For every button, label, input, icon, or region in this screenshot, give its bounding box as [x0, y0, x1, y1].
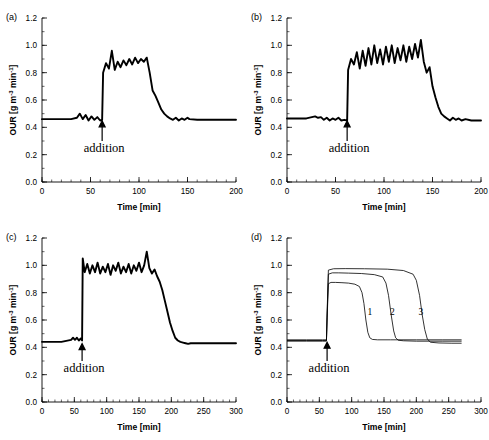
y-tick-label: 1.0 — [271, 41, 283, 50]
y-tick-label: 0.2 — [26, 371, 38, 380]
y-tick-label: 0.8 — [271, 289, 283, 298]
y-tick-label: 0.0 — [271, 178, 283, 187]
x-tick-label: 250 — [197, 407, 211, 416]
panel-letter: (b) — [251, 12, 262, 22]
chart-c: (c)0501001502002503000.00.20.40.60.81.01… — [0, 220, 244, 440]
x-tick-label: 50 — [86, 187, 96, 196]
x-tick-label: 150 — [132, 407, 146, 416]
y-axis-title: OUR [g m-3 min-1] — [253, 284, 263, 355]
x-tick-label: 200 — [164, 407, 178, 416]
x-tick-label: 150 — [377, 407, 391, 416]
y-tick-label: 0.0 — [26, 178, 38, 187]
y-tick-label: 0.6 — [271, 316, 283, 325]
x-tick-label: 200 — [229, 187, 243, 196]
x-axis-title: Time [min] — [362, 422, 405, 432]
y-axis-title: OUR [g m-3 min-1] — [8, 284, 18, 355]
series-our-measured — [42, 51, 236, 121]
y-tick-label: 0.8 — [271, 69, 283, 78]
y-tick-label: 0.6 — [271, 96, 283, 105]
panel-letter: (c) — [6, 232, 17, 242]
x-tick-label: 100 — [100, 407, 114, 416]
series-1 — [287, 282, 462, 339]
y-tick-label: 0.4 — [271, 123, 283, 132]
y-axis-title: OUR [g m-3 min-1] — [253, 64, 263, 135]
y-tick-label: 0.2 — [26, 151, 38, 160]
chart-b: (b)0501001502000.00.20.40.60.81.01.2Time… — [245, 0, 489, 220]
x-tick-label: 100 — [132, 187, 146, 196]
y-tick-label: 1.0 — [26, 261, 38, 270]
x-tick-label: 250 — [442, 407, 456, 416]
x-tick-label: 0 — [40, 407, 45, 416]
addition-label: addition — [329, 141, 371, 155]
addition-label: addition — [84, 141, 126, 155]
x-axis-title: Time [min] — [362, 202, 405, 212]
y-axis-title: OUR [g m-3 min-1] — [8, 64, 18, 135]
y-tick-label: 1.2 — [26, 234, 38, 243]
x-tick-label: 200 — [474, 187, 488, 196]
panel-letter: (d) — [251, 232, 262, 242]
addition-label: addition — [64, 361, 106, 375]
y-tick-label: 0.4 — [271, 343, 283, 352]
x-tick-label: 50 — [315, 407, 325, 416]
x-tick-label: 150 — [181, 187, 195, 196]
y-tick-label: 1.2 — [26, 14, 38, 23]
y-tick-label: 1.0 — [271, 261, 283, 270]
panel-b: (b)0501001502000.00.20.40.60.81.01.2Time… — [245, 0, 489, 220]
y-tick-label: 0.2 — [271, 151, 283, 160]
panel-a: (a)0501001502000.00.20.40.60.81.01.2Time… — [0, 0, 244, 220]
addition-arrow-head — [99, 121, 105, 127]
x-tick-label: 200 — [409, 407, 423, 416]
y-tick-label: 1.2 — [271, 14, 283, 23]
x-tick-label: 50 — [331, 187, 341, 196]
x-tick-label: 300 — [229, 407, 243, 416]
y-tick-label: 0.8 — [26, 69, 38, 78]
y-tick-label: 1.2 — [271, 234, 283, 243]
chart-d: (d)0501001502002503000.00.20.40.60.81.01… — [245, 220, 489, 440]
y-tick-label: 0.6 — [26, 316, 38, 325]
figure-four-panel-our-plots: (a)0501001502000.00.20.40.60.81.01.2Time… — [0, 0, 489, 440]
y-tick-label: 0.0 — [271, 398, 283, 407]
addition-arrow-head — [79, 344, 85, 350]
addition-label: addition — [309, 361, 351, 375]
x-tick-label: 0 — [285, 407, 290, 416]
y-tick-label: 0.2 — [271, 371, 283, 380]
x-tick-label: 0 — [285, 187, 290, 196]
x-tick-label: 0 — [40, 187, 45, 196]
chart-a: (a)0501001502000.00.20.40.60.81.01.2Time… — [0, 0, 244, 220]
panel-letter: (a) — [6, 12, 17, 22]
y-tick-label: 0.8 — [26, 289, 38, 298]
addition-arrow-head — [324, 342, 330, 348]
curve-label-2: 2 — [390, 307, 395, 317]
x-tick-label: 100 — [377, 187, 391, 196]
panel-d: (d)0501001502002503000.00.20.40.60.81.01… — [245, 220, 489, 440]
series-our-measured — [287, 40, 481, 121]
y-tick-label: 0.6 — [26, 96, 38, 105]
x-tick-label: 50 — [70, 407, 80, 416]
series-2 — [287, 273, 462, 341]
addition-arrow-head — [344, 121, 350, 127]
x-axis-title: Time [min] — [117, 202, 160, 212]
x-tick-label: 150 — [426, 187, 440, 196]
curve-label-3: 3 — [418, 307, 423, 317]
x-axis-title: Time [min] — [117, 422, 160, 432]
y-tick-label: 1.0 — [26, 41, 38, 50]
y-tick-label: 0.0 — [26, 398, 38, 407]
curve-label-1: 1 — [367, 307, 372, 317]
series-3 — [287, 269, 462, 344]
x-tick-label: 300 — [474, 407, 488, 416]
series-our-measured — [42, 252, 236, 344]
x-tick-label: 100 — [345, 407, 359, 416]
y-tick-label: 0.4 — [26, 123, 38, 132]
panel-c: (c)0501001502002503000.00.20.40.60.81.01… — [0, 220, 244, 440]
y-tick-label: 0.4 — [26, 343, 38, 352]
